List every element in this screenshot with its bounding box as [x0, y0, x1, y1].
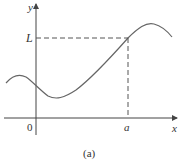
x-axis-label: x	[171, 122, 177, 134]
y-marker-label: L	[25, 31, 33, 45]
y-axis-label: y	[27, 1, 33, 13]
function-graph: y x 0 L a (a)	[0, 0, 183, 164]
x-marker-label: a	[124, 121, 130, 133]
figure-caption: (a)	[83, 147, 96, 160]
origin-label: 0	[27, 121, 33, 133]
